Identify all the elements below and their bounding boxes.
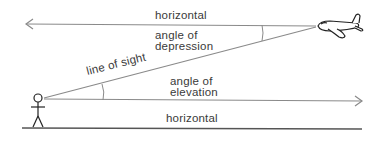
elevation-label-line2: elevation (170, 87, 218, 98)
top-horizontal-label: horizontal (155, 10, 207, 21)
elevation-angle-arc (102, 84, 104, 100)
depression-label-line2: depression (155, 41, 213, 52)
observer-person-icon (31, 94, 45, 127)
diagram: horizontal angle of depression line of s… (0, 0, 385, 143)
ground-line (22, 128, 362, 129)
airplane-icon (318, 14, 363, 38)
depression-angle-arc (262, 25, 263, 41)
bottom-horizontal-label: horizontal (166, 113, 218, 124)
